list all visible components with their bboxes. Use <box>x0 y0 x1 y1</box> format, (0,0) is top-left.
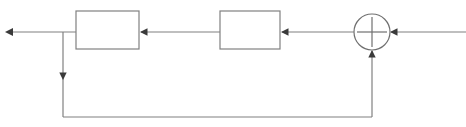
feedback-down-arrow-icon <box>59 73 66 81</box>
input-arrow-icon <box>390 28 398 35</box>
block-left-rect <box>76 11 139 49</box>
forward-signal-1-group <box>281 28 354 35</box>
block-right-rect <box>220 11 280 49</box>
summing-junction[interactable] <box>354 14 390 50</box>
input-signal-group <box>390 28 466 35</box>
output-arrow-icon <box>5 28 13 36</box>
forward-signal-2-arrow-icon <box>140 28 148 35</box>
feedback-up-arrow-icon <box>368 50 375 58</box>
forward-signal-1-arrow-icon <box>281 28 289 35</box>
block-left[interactable] <box>76 11 139 49</box>
block-diagram-canvas <box>0 0 466 127</box>
forward-signal-2-group <box>140 28 220 35</box>
block-diagram-svg <box>0 0 466 127</box>
output-signal-group <box>5 28 76 36</box>
block-right[interactable] <box>220 11 280 49</box>
